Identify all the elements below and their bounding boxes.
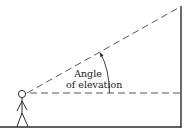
right-leg (22, 113, 28, 127)
angle-label: Angle of elevation (66, 68, 110, 90)
head (18, 90, 25, 97)
person-figure (17, 90, 28, 126)
arrowhead-icon (100, 52, 104, 57)
angle-label-line1: Angle (66, 68, 110, 79)
left-leg (17, 113, 22, 127)
angle-label-line2: of elevation (66, 79, 110, 90)
right-arm (22, 101, 27, 110)
left-arm (17, 101, 22, 111)
